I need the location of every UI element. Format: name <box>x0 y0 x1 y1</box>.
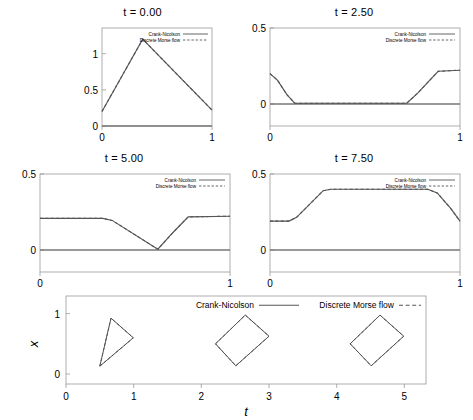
curve-discrete-morse-flow <box>40 216 230 249</box>
xtick-label-1: 1 <box>209 132 215 143</box>
plot-area-t-5: 0 0.5 0 1 Crank-Nicolson Discrete Morse … <box>8 152 240 292</box>
shape-triangle-1-dashed <box>100 318 134 366</box>
panel-profile-t-5: t = 5.00 0 0.5 0 1 Crank-Nicolson Discre… <box>8 152 240 292</box>
curve-crank-nicolson <box>40 216 230 249</box>
xtick-label-0: 0 <box>99 132 105 143</box>
plot-frame <box>40 174 230 272</box>
xtick-label-0: 0 <box>267 132 273 143</box>
xtick-label-5: 5 <box>402 391 408 402</box>
plot-area-t-7_5: 0 0.5 0 1 Crank-Nicolson Discrete Morse … <box>238 152 470 292</box>
legend: Crank-Nicolson Discrete Morse flow <box>196 300 421 310</box>
ytick-label-0: 0 <box>260 245 266 256</box>
shape-rect-2-dashed <box>216 315 270 366</box>
panel-profile-t-2_5: t = 2.50 0 0.5 0 1 Crank-Nicolson Discre… <box>238 6 470 146</box>
legend: Crank-Nicolson Discrete Morse flow <box>140 32 208 43</box>
xtick-label-1: 1 <box>457 132 463 143</box>
panel-profile-t-7_5: t = 7.50 0 0.5 0 1 Crank-Nicolson Discre… <box>238 152 470 292</box>
yaxis-label: x <box>26 340 41 348</box>
legend-label-discrete-morse-flow: Discrete Morse flow <box>140 38 181 43</box>
ytick-label-05: 0.5 <box>252 169 266 180</box>
panel-spacetime: 0 1 x 0 1 2 3 4 5 t <box>6 292 473 420</box>
legend: Crank-Nicolson Discrete Morse flow <box>386 178 455 189</box>
curve-discrete-morse-flow <box>102 39 212 111</box>
figure-root: t = 0.00 0 0.5 1 0 1 Crank-Nicolson <box>0 0 473 420</box>
plot-area-t-2_5: 0 0.5 0 1 Crank-Nicolson Discrete Morse … <box>238 6 470 146</box>
ytick-label-0: 0 <box>92 121 98 132</box>
legend-label-crank-nicolson: Crank-Nicolson <box>395 32 427 37</box>
panel-title: t = 5.00 <box>8 152 240 164</box>
legend: Crank-Nicolson Discrete Morse flow <box>156 178 225 189</box>
xtick-label-2: 2 <box>199 391 205 402</box>
plot-area-t-0: 0 0.5 1 0 1 Crank-Nicolson Discrete Mors… <box>60 6 225 146</box>
xtick-label-0: 0 <box>37 278 43 289</box>
curve-discrete-morse-flow <box>270 189 460 221</box>
plot-frame <box>270 28 460 126</box>
curve-crank-nicolson <box>270 70 460 103</box>
plot-area-spacetime: 0 1 x 0 1 2 3 4 5 t <box>6 292 473 420</box>
curve-crank-nicolson <box>102 39 212 111</box>
legend-label-discrete-morse-flow: Discrete Morse flow <box>156 184 197 189</box>
ytick-label-1: 1 <box>54 309 60 320</box>
ytick-label-0: 0 <box>260 99 266 110</box>
xtick-label-0: 0 <box>267 278 273 289</box>
curve-crank-nicolson <box>270 189 460 221</box>
ytick-label-1: 1 <box>92 49 98 60</box>
legend-label-crank-nicolson: Crank-Nicolson <box>196 300 254 310</box>
xtick-label-1: 1 <box>227 278 233 289</box>
xtick-label-3: 3 <box>266 391 272 402</box>
xtick-label-1: 1 <box>457 278 463 289</box>
shape-rect-2-solid <box>216 315 270 366</box>
legend-label-discrete-morse-flow: Discrete Morse flow <box>319 300 394 310</box>
shape-rect-3-dashed <box>350 315 404 366</box>
ytick-label-05: 0.5 <box>84 85 98 96</box>
xtick-label-1: 1 <box>131 391 137 402</box>
panel-title: t = 2.50 <box>238 6 470 18</box>
ytick-label-0: 0 <box>30 245 36 256</box>
legend-label-discrete-morse-flow: Discrete Morse flow <box>386 184 427 189</box>
xtick-label-0: 0 <box>63 391 69 402</box>
legend-label-discrete-morse-flow: Discrete Morse flow <box>386 38 427 43</box>
ytick-label-0: 0 <box>54 369 60 380</box>
legend: Crank-Nicolson Discrete Morse flow <box>386 32 455 43</box>
panel-profile-t-0: t = 0.00 0 0.5 1 0 1 Crank-Nicolson <box>60 6 225 146</box>
xtick-label-4: 4 <box>334 391 340 402</box>
legend-label-crank-nicolson: Crank-Nicolson <box>149 32 181 37</box>
xaxis-label: t <box>244 404 249 419</box>
legend-label-crank-nicolson: Crank-Nicolson <box>165 178 197 183</box>
ytick-label-05: 0.5 <box>22 169 36 180</box>
panel-title: t = 0.00 <box>60 6 225 18</box>
ytick-label-05: 0.5 <box>252 23 266 34</box>
panel-title: t = 7.50 <box>238 152 470 164</box>
shape-rect-3-solid <box>350 315 404 366</box>
plot-frame <box>102 28 212 126</box>
legend-label-crank-nicolson: Crank-Nicolson <box>395 178 427 183</box>
curve-discrete-morse-flow <box>270 70 460 103</box>
